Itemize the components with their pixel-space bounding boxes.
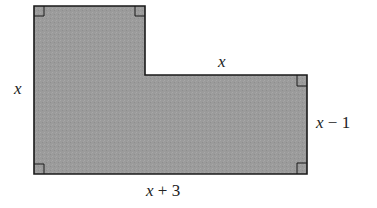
l-shape <box>34 6 307 174</box>
label-top-right-segment: x <box>217 52 226 71</box>
label-right-side: x − 1 <box>315 113 350 132</box>
label-bottom-side: x + 3 <box>145 181 180 200</box>
label-left-side: x <box>13 79 22 98</box>
l-shape-diagram: x x x − 1 x + 3 <box>0 0 377 208</box>
